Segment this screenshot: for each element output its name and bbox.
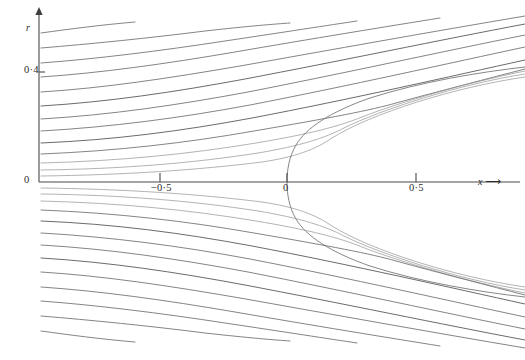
streamline-upper-8 xyxy=(41,47,525,131)
x-axis-title: x xyxy=(478,176,482,187)
y-axis-arrowhead xyxy=(35,7,42,15)
streamline-lower-8 xyxy=(41,233,525,317)
y-tick-label-0p4: 0·4 xyxy=(24,64,39,75)
x-tick-label-zero: 0 xyxy=(283,182,288,193)
streamline-upper-3 xyxy=(41,21,357,63)
streamline-upper-7 xyxy=(41,35,525,119)
streamline-lower-2 xyxy=(41,316,290,341)
streamline-upper-5 xyxy=(41,16,525,92)
streamline-lower-5 xyxy=(41,272,525,348)
streamline-lower-6 xyxy=(41,258,525,340)
separatrix-lower xyxy=(287,182,525,297)
streamline-group-lower xyxy=(41,188,525,348)
x-tick-label-pos0p5: 0·5 xyxy=(409,182,424,193)
x-tick-label-neg0p5: −0·5 xyxy=(151,182,172,193)
x-axis-arrow-icon: ⟶ xyxy=(485,175,501,188)
y-axis-title: r xyxy=(26,22,30,33)
streamline-plot-canvas xyxy=(0,0,525,360)
streamline-lower-9 xyxy=(41,221,525,304)
streamline-lower-3 xyxy=(41,301,357,343)
streamline-lower-7 xyxy=(41,245,525,329)
streamline-upper-6 xyxy=(41,24,525,106)
separatrix-upper xyxy=(287,67,525,182)
streamline-upper-9 xyxy=(41,60,525,143)
x-axis-title-group: x⟶ xyxy=(478,175,501,188)
streamline-figure: r 0·4 0 −0·5 0 0·5 x⟶ xyxy=(0,0,525,360)
streamline-upper-2 xyxy=(41,23,290,48)
origin-label: 0 xyxy=(24,174,29,185)
streamline-group-upper xyxy=(41,16,525,176)
streamline-upper-13 xyxy=(41,77,525,176)
streamline-upper-1 xyxy=(41,22,135,33)
streamline-lower-13 xyxy=(41,188,525,287)
streamline-lower-1 xyxy=(41,331,135,342)
